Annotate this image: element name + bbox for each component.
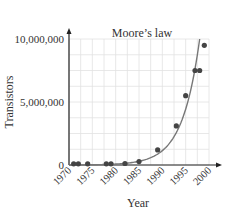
x-tick-label: 1985 (121, 165, 144, 188)
x-tick-label: 2000 (191, 165, 214, 188)
x-tick-labels: 1970197519801985199019952000 (51, 165, 214, 188)
data-point (174, 123, 179, 128)
x-axis-label: Year (127, 196, 149, 210)
data-point (136, 159, 141, 164)
y-tick-label: 5,000,000 (20, 96, 65, 108)
data-point (192, 68, 197, 73)
chart-title: Moore’s law (112, 26, 173, 40)
y-tick-label: 10,000,000 (15, 33, 65, 45)
y-tick-labels: 05,000,00010,000,000 (15, 33, 65, 171)
data-point (71, 161, 76, 166)
data-point (76, 161, 81, 166)
x-tick-label: 1995 (167, 165, 190, 188)
x-tick-label: 1975 (74, 165, 97, 188)
moores-law-chart: 05,000,00010,000,000 1970197519801985199… (0, 0, 231, 220)
data-point (183, 93, 188, 98)
x-tick-label: 1980 (97, 165, 120, 188)
data-point (155, 147, 160, 152)
x-axis-arrow-icon (216, 163, 222, 168)
data-point (197, 68, 202, 73)
y-axis-label: Transistors (2, 75, 16, 128)
y-axis-arrow-icon (67, 28, 72, 34)
data-point (122, 161, 127, 166)
data-point (104, 161, 109, 166)
x-tick-label: 1990 (144, 165, 167, 188)
x-tick-label: 1970 (51, 165, 74, 188)
data-point (202, 43, 207, 48)
